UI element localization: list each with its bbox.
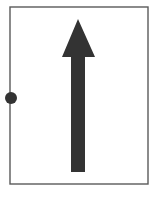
anchor-dot bbox=[5, 92, 17, 104]
arrow-diagram bbox=[0, 0, 159, 201]
diagram-canvas bbox=[0, 0, 159, 201]
